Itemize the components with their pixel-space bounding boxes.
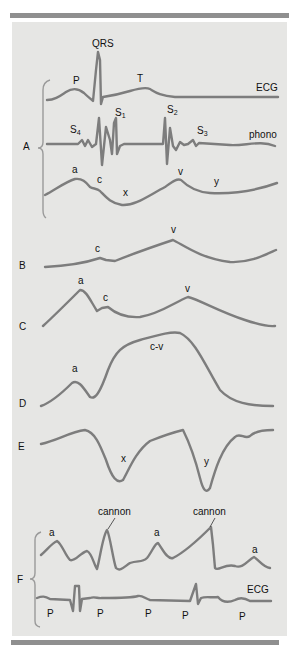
a-wave-label-a: a <box>72 164 78 175</box>
p-label-f1: P <box>47 608 54 619</box>
panel-label-e: E <box>18 441 25 452</box>
panel-label-d: D <box>19 398 26 409</box>
x-descent-label-a: x <box>123 187 128 198</box>
panel-label-b: B <box>19 260 26 271</box>
y-descent-label-a: y <box>214 176 219 187</box>
ecg-label-f: ECG <box>247 584 269 595</box>
v-wave-label-a: v <box>178 166 183 177</box>
panel-label-a: A <box>23 141 30 152</box>
s2-label: S2 <box>167 104 178 116</box>
t-label: T <box>137 73 143 84</box>
p-label-f5: P <box>239 611 246 622</box>
jvp-trace-e <box>41 430 273 491</box>
jvp-trace-c <box>43 290 275 326</box>
y-descent-label-e: y <box>204 456 209 467</box>
p-label-f3: P <box>145 608 152 619</box>
ecg-trace-f <box>37 584 271 611</box>
jvp-diagram: A QRS P T ECG S4 S1 S2 S3 phono a c x v … <box>0 0 298 657</box>
a-wave-label-f1: a <box>49 527 55 538</box>
cannon-leader-2 <box>210 518 215 527</box>
a-wave-label-f2: a <box>154 527 160 538</box>
p-label-f4: P <box>182 610 189 621</box>
phono-label: phono <box>249 129 277 140</box>
v-wave-label-b: v <box>171 224 176 235</box>
brace-f <box>30 532 41 627</box>
c-wave-label-b: c <box>95 243 100 254</box>
p-label: P <box>73 75 80 86</box>
s3-label: S3 <box>197 125 208 137</box>
cannon-label-1: cannon <box>98 506 131 517</box>
a-wave-label-c: a <box>78 275 84 286</box>
jvp-trace-a <box>45 179 277 205</box>
c-wave-label-c: c <box>103 292 108 303</box>
x-descent-label-e: x <box>121 453 126 464</box>
ecg-trace-a <box>47 52 278 104</box>
qrs-label: QRS <box>92 38 114 49</box>
v-wave-label-c: v <box>185 283 190 294</box>
a-wave-label-d: a <box>72 363 78 374</box>
a-wave-label-f3: a <box>252 544 258 555</box>
bottom-rule <box>11 640 279 645</box>
panel-label-c: C <box>19 321 26 332</box>
cannon-label-2: cannon <box>193 506 226 517</box>
p-label-f2: P <box>97 608 104 619</box>
c-wave-label-a: c <box>97 174 102 185</box>
cv-wave-label-d: c-v <box>150 341 163 352</box>
ecg-label-a: ECG <box>256 82 278 93</box>
panel-label-f: F <box>17 574 23 585</box>
cannon-leader-1 <box>108 518 115 529</box>
phono-trace <box>47 118 275 165</box>
s1-label: S1 <box>115 107 126 119</box>
jvp-trace-b <box>45 240 276 267</box>
s4-label: S4 <box>70 124 81 136</box>
